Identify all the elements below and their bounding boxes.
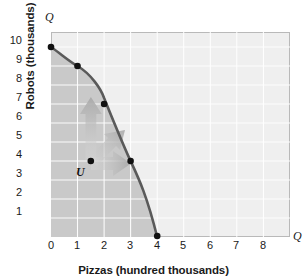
x-tick-3: 3 [122, 239, 138, 251]
y-tick-9: 9 [0, 53, 22, 65]
y-axis-title: Robots (thousands) [24, 0, 36, 146]
y-tick-5: 5 [0, 129, 22, 141]
y-axis-quantity-label: Q [45, 10, 54, 25]
x-tick-6: 6 [202, 239, 218, 251]
x-tick-8: 8 [255, 239, 271, 251]
point-3-4 [127, 158, 134, 165]
point-u-label: U [76, 165, 85, 180]
x-tick-2: 2 [96, 239, 112, 251]
x-tick-5: 5 [175, 239, 191, 251]
x-tick-1: 1 [69, 239, 85, 251]
x-tick-7: 7 [228, 239, 244, 251]
x-axis-title: Pizzas (hundred thousands) [0, 264, 307, 276]
x-axis-quantity-label: Q [293, 229, 302, 244]
y-tick-10: 10 [0, 34, 22, 46]
y-tick-4: 4 [0, 148, 22, 160]
point-u [88, 158, 95, 165]
y-tick-3: 3 [0, 167, 22, 179]
y-tick-6: 6 [0, 110, 22, 122]
y-tick-7: 7 [0, 91, 22, 103]
point-1-9 [74, 63, 81, 70]
point-2-7 [101, 101, 108, 108]
x-tick-0: 0 [43, 239, 59, 251]
ppf-chart-figure: Q Q [0, 0, 307, 279]
point-0-10 [48, 44, 55, 51]
plot-drawing-layer [51, 32, 290, 237]
x-tick-4: 4 [149, 239, 165, 251]
y-tick-1: 1 [0, 205, 22, 217]
y-tick-2: 2 [0, 186, 22, 198]
y-tick-8: 8 [0, 72, 22, 84]
